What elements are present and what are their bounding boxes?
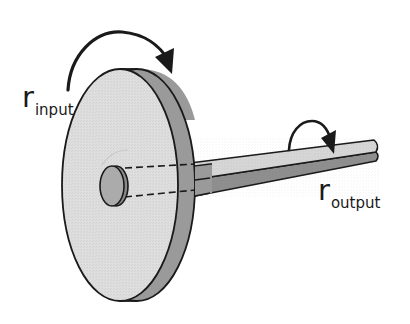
input-radius-label: rinput: [22, 83, 74, 112]
output-radius-symbol: r: [318, 173, 330, 207]
wheel-and-axle-diagram: rinput routput: [0, 0, 410, 324]
hub: [100, 166, 128, 206]
input-radius-symbol: r: [22, 80, 34, 114]
axle-front: [195, 164, 212, 196]
output-radius-subscript: output: [331, 194, 380, 212]
output-radius-label: routput: [318, 176, 380, 205]
input-radius-subscript: input: [35, 101, 74, 119]
